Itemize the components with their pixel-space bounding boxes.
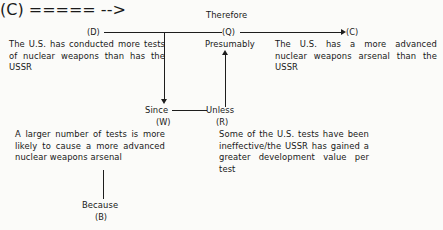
- connector-label-unless: Unless: [206, 105, 234, 115]
- node-tag-q: (Q): [222, 27, 235, 37]
- edge-q-to-c-line: [240, 32, 342, 33]
- node-text-qualifier: Presumably: [205, 39, 255, 49]
- arrowhead-down-to-w-icon: [161, 99, 167, 104]
- node-tag-w: (W): [156, 117, 170, 127]
- edge-d-to-q-line: [104, 32, 222, 33]
- node-tag-r: (R): [216, 117, 228, 127]
- node-text-datum: The U.S. has conducted more tests of nuc…: [9, 39, 165, 74]
- edge-d-to-w-line: [164, 32, 165, 101]
- connector-label-since: Since: [145, 105, 168, 115]
- node-text-claim: The U.S. has a more advanced nuclear wea…: [275, 39, 437, 74]
- argument-diagram-canvas: Therefore (C) ===== --> (D) (Q) (C) The …: [0, 0, 443, 230]
- connector-label-therefore: Therefore: [206, 10, 247, 20]
- connector-label-because: Because: [82, 200, 118, 210]
- arrowhead-up-to-q-icon: [222, 50, 228, 55]
- node-text-rebuttal: Some of the U.S. tests have been ineffec…: [219, 129, 369, 175]
- edge-w-to-b-line: [103, 170, 104, 199]
- edge-w-to-r-line: [172, 110, 207, 111]
- node-tag-c: (C): [346, 27, 358, 37]
- node-text-warrant: A larger number of tests is more likely …: [15, 129, 165, 164]
- edge-r-to-q-line: [225, 55, 226, 107]
- node-tag-d: (D): [87, 27, 100, 37]
- node-tag-b: (B): [95, 212, 107, 222]
